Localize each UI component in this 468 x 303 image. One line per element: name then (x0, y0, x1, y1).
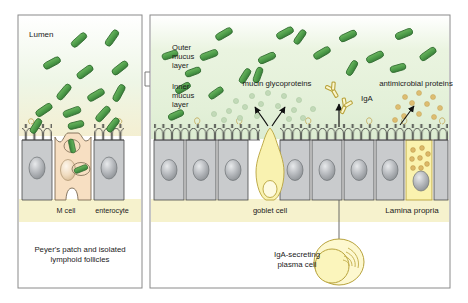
label-lamina-propria: Lamina propria (385, 206, 439, 215)
label-inner-mucus-line3: layer (172, 100, 189, 109)
label-outer-mucus-line1: Outer (172, 43, 191, 52)
label-plasma-cell-line1: IgA-secreting (274, 250, 320, 259)
label-iga: IgA (361, 94, 374, 103)
diagram-svg: Lumen M cell enterocyte Peyer's patch an… (0, 0, 468, 303)
label-inner-mucus-line1: Inner (172, 82, 190, 91)
right-panel: Outer mucus layer Inner mucus layer muci… (150, 15, 453, 288)
label-peyers-patch-line1: Peyer's patch and isolated (34, 245, 125, 254)
label-outer-mucus-line2: mucus (172, 52, 195, 61)
label-m-cell: M cell (57, 206, 76, 215)
right-epithelium (154, 118, 448, 200)
figure-root: Lumen M cell enterocyte Peyer's patch an… (0, 0, 468, 303)
label-peyers-patch-line2: lymphoid follicles (51, 255, 110, 264)
label-lumen: Lumen (29, 30, 53, 39)
label-plasma-cell-line2: plasma cell (278, 260, 317, 269)
label-inner-mucus-line2: mucus (172, 91, 195, 100)
label-antimicrobial-proteins: antimicrobial proteins (379, 79, 453, 88)
left-panel: Lumen M cell enterocyte Peyer's patch an… (18, 15, 142, 288)
label-enterocyte: enterocyte (95, 206, 129, 215)
label-goblet-cell: goblet cell (253, 206, 288, 215)
paneth-cell-nucleus (413, 171, 429, 191)
goblet-cell-nucleus (263, 181, 277, 198)
label-outer-mucus-line3: layer (172, 61, 189, 70)
iga-secreting-plasma-cell (314, 239, 364, 285)
label-mucin-glycoproteins: mucin glycoproteins (243, 79, 312, 88)
